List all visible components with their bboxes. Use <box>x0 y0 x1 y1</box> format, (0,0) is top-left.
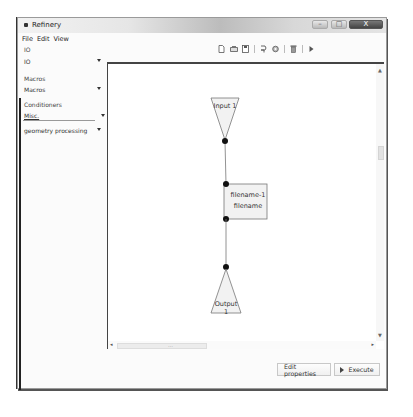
close-icon: X <box>350 20 382 28</box>
conditioners-combo-value: Misc. <box>24 112 39 119</box>
process-node-label-1[interactable]: filename-1 <box>228 191 268 199</box>
copy-icon[interactable] <box>260 45 267 53</box>
maximize-icon: □ <box>332 20 346 28</box>
output-node-label[interactable]: Output 1 <box>212 300 240 316</box>
play-icon <box>340 367 344 373</box>
app-icon <box>24 23 28 27</box>
vertical-scroll-thumb[interactable] <box>378 146 384 160</box>
menu-bar: File Edit View <box>22 35 69 43</box>
io-combo-value: IO <box>24 58 31 65</box>
toolbar-separator <box>302 45 303 53</box>
horizontal-scroll-thumb[interactable]: ⋯ <box>117 343 207 349</box>
macros-combo[interactable]: Macros <box>23 85 103 94</box>
run-icon[interactable] <box>308 45 315 53</box>
settings-icon[interactable] <box>272 45 279 53</box>
category-combo[interactable]: geometry processing <box>23 126 103 135</box>
new-file-icon[interactable] <box>218 45 225 53</box>
process-node-label-2[interactable]: filename <box>228 202 268 210</box>
edit-properties-label: Edit properties <box>284 363 324 377</box>
menu-view[interactable]: View <box>53 35 68 43</box>
delete-icon[interactable] <box>290 45 297 53</box>
category-combo-value: geometry processing <box>24 127 87 134</box>
input-output-port <box>222 138 228 144</box>
process-input-port <box>223 181 229 187</box>
window-title: Refinery <box>32 21 61 29</box>
toolbar-separator <box>254 45 255 53</box>
toolbar <box>218 43 315 55</box>
menu-edit[interactable]: Edit <box>37 35 50 43</box>
edit-properties-button[interactable]: Edit properties <box>277 363 331 376</box>
chevron-down-icon[interactable] <box>101 114 105 117</box>
title-bar[interactable]: Refinery – □ X <box>18 18 386 33</box>
save-icon[interactable] <box>242 45 249 53</box>
action-buttons: Edit properties Execute <box>277 363 380 376</box>
open-icon[interactable] <box>230 45 237 53</box>
minimize-icon: – <box>313 20 327 28</box>
execute-button[interactable]: Execute <box>334 363 380 376</box>
macros-combo-value: Macros <box>24 86 45 93</box>
scroll-left-icon[interactable]: ◂ <box>110 341 113 347</box>
conditioners-combo[interactable]: Misc. <box>23 111 95 121</box>
graph-canvas[interactable]: Input 1 filename-1 filename Output 1 ▲ ▼… <box>107 62 384 349</box>
chevron-down-icon <box>97 87 101 90</box>
grip-icon: ⋯ <box>168 343 173 349</box>
chevron-down-icon <box>97 59 101 62</box>
refinery-window: Refinery – □ X File Edit View IO IO Macr… <box>17 17 387 389</box>
scroll-up-icon[interactable]: ▲ <box>378 67 382 73</box>
toolbar-separator <box>284 45 285 53</box>
minimize-button[interactable]: – <box>312 20 328 29</box>
chevron-down-icon <box>97 128 101 131</box>
vertical-scrollbar[interactable]: ▲ ▼ <box>376 64 384 341</box>
scroll-right-icon[interactable]: ▸ <box>371 341 374 347</box>
maximize-button[interactable]: □ <box>331 20 347 29</box>
io-label: IO <box>24 46 31 53</box>
scroll-down-icon[interactable]: ▼ <box>378 332 382 338</box>
close-button[interactable]: X <box>349 20 383 29</box>
menu-file[interactable]: File <box>22 35 33 43</box>
execute-label: Execute <box>348 366 373 373</box>
horizontal-scrollbar[interactable]: ◂ ⋯ ▸ <box>108 341 376 349</box>
input-node-label[interactable]: Input 1 <box>211 102 239 110</box>
macros-label: Macros <box>24 75 45 82</box>
io-combo[interactable]: IO <box>23 57 103 66</box>
conditioners-label: Conditioners <box>24 101 62 108</box>
panel-divider <box>19 98 21 390</box>
